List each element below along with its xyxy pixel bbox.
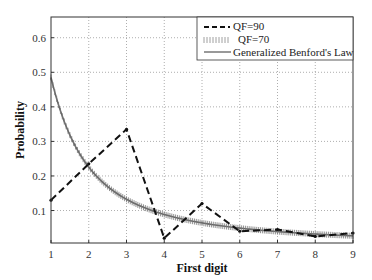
x-tick-label: 7 [275,248,281,260]
y-tick-label: 0.2 [32,170,46,182]
legend-entry: QF=90 [233,20,265,32]
y-tick-label: 0.4 [32,101,46,113]
legend-entry: QF=70 [238,33,270,45]
y-tick-label: 0.5 [32,66,46,78]
series-qf70 [51,74,353,238]
x-tick-label: 4 [162,248,168,260]
x-tick-label: 1 [48,248,54,260]
y-tick-label: 0.6 [32,32,46,44]
x-tick-label: 5 [199,248,205,260]
x-tick-label: 9 [350,248,356,260]
x-tick-label: 8 [313,248,319,260]
x-tick-label: 3 [124,248,130,260]
y-axis-label: Probability [13,101,27,159]
chart: 1234567890.10.20.30.40.50.6First digitPr… [0,0,372,280]
y-tick-label: 0.3 [32,135,46,147]
x-tick-label: 2 [86,248,92,260]
x-tick-label: 6 [237,248,243,260]
y-tick-label: 0.1 [32,205,46,217]
x-axis-label: First digit [177,261,228,275]
legend: QF=90QF=70Generalized Benford's Law [197,17,354,60]
legend-entry: Generalized Benford's Law [233,46,354,58]
